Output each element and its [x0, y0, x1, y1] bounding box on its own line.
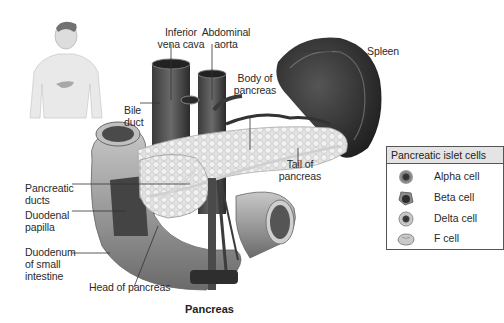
- legend-item-alpha: Alpha cell: [387, 167, 503, 187]
- delta-cell-icon: [397, 211, 415, 227]
- f-cell-icon: [397, 231, 415, 247]
- pancreas-diagram: Inferior vena cava Abdominal aorta Body …: [0, 0, 504, 323]
- legend-item-delta: Delta cell: [387, 209, 503, 229]
- label-body-of-pancreas: Body of pancreas: [230, 72, 280, 96]
- alpha-cell-icon: [397, 169, 415, 185]
- label-bile-duct: Bile duct: [124, 104, 143, 128]
- label-pancreatic-ducts: Pancreatic ducts: [25, 182, 74, 206]
- torso-inset: [30, 22, 102, 118]
- beta-cell-icon: [397, 190, 415, 206]
- label-spleen: Spleen: [367, 45, 399, 57]
- figure-caption: Pancreas: [185, 303, 234, 315]
- label-duodenal-papilla: Duodenal papilla: [25, 209, 69, 233]
- label-duodenum: Duodenum of small intestine: [25, 246, 76, 282]
- legend-item-f: F cell: [387, 229, 503, 249]
- legend-item-beta: Beta cell: [387, 188, 503, 208]
- label-abdominal-aorta: Abdominal aorta: [196, 26, 256, 50]
- label-tail-of-pancreas: Tail of pancreas: [275, 158, 325, 182]
- label-head-of-pancreas: Head of pancreas: [89, 281, 170, 293]
- legend-title: Pancreatic islet cells: [387, 147, 503, 164]
- islet-cells-legend: Pancreatic islet cells Alpha cell Beta c…: [386, 146, 504, 250]
